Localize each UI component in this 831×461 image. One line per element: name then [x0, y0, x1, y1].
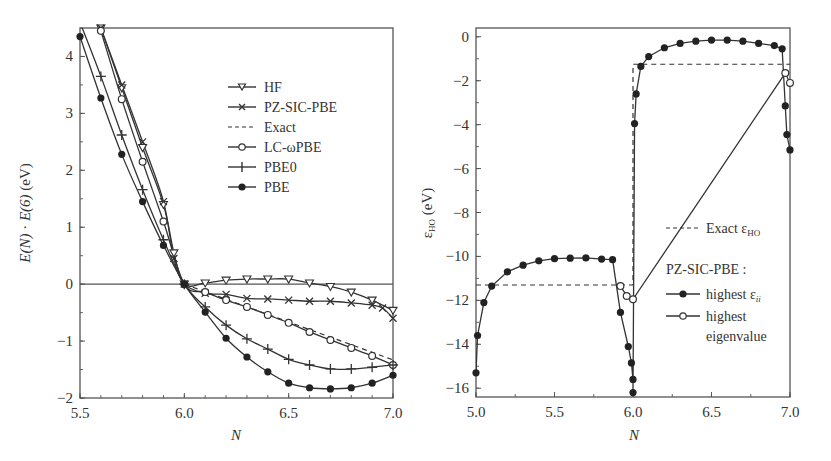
left-y-label-dot: · [17, 221, 33, 234]
y-tick-label: −12 [446, 292, 469, 308]
legend-item-hf: HF [228, 80, 282, 95]
data-point-open-circle [264, 311, 271, 318]
y-tick-label: 1 [66, 219, 74, 235]
legend-label: PZ-SIC-PBE [264, 100, 337, 115]
legend-exact-text: Exact ε [706, 221, 747, 236]
data-point-filled-circle [520, 262, 527, 269]
data-point-filled-circle [306, 384, 313, 391]
data-point-filled-circle [488, 282, 495, 289]
left-legend: HF PZ-SIC-PBE Exact LC-ωPBE PBE0 PBE [228, 80, 337, 195]
data-point-plus [284, 354, 294, 364]
y-tick-label: 4 [66, 48, 74, 64]
series-pbe0 [80, 22, 393, 369]
data-point-open-circle [348, 345, 355, 352]
data-point-filled-circle [708, 36, 715, 43]
data-point-filled-circle [771, 42, 778, 49]
series-layer [80, 22, 393, 389]
data-point-filled-circle [677, 40, 684, 47]
data-point-plus [367, 362, 377, 372]
y-tick-label: −6 [453, 161, 469, 177]
data-point-filled-circle [222, 335, 229, 342]
x-tick-label: 5.5 [545, 404, 564, 420]
y-tick-label: 2 [66, 162, 74, 178]
y-tick-label: −14 [446, 336, 470, 352]
data-point-filled-circle [181, 281, 188, 288]
data-point-filled-circle [755, 40, 762, 47]
x-tick-label: 6.5 [702, 404, 721, 420]
legend-title: PZ-SIC-PBE : [666, 262, 747, 277]
legend-label: highest [706, 309, 747, 324]
left-y-axis-label: E(N) · E(6) (eV) [17, 163, 34, 264]
data-point-filled-circle [661, 44, 668, 51]
data-point-filled-circle [567, 255, 574, 262]
legend-label: highest εii [706, 287, 761, 304]
data-point-plus [117, 130, 127, 140]
legend-eii-text: highest ε [706, 287, 756, 302]
series-line [101, 31, 393, 365]
left-x-axis-label: N [230, 427, 242, 443]
data-point-filled-circle [692, 38, 699, 45]
data-point-open-circle [630, 296, 637, 303]
series-pbe [80, 37, 393, 389]
legend-eii-sub: ii [756, 294, 762, 304]
data-point-open-circle [139, 158, 146, 165]
data-point-plus [263, 344, 273, 354]
data-point-filled-circle [598, 255, 605, 262]
data-point-filled-circle [629, 376, 636, 383]
data-point-open-circle [160, 218, 167, 225]
data-point-open-circle [617, 283, 624, 290]
legend-label: LC-ωPBE [264, 140, 321, 155]
x-tick-label: 6.0 [624, 404, 643, 420]
data-point-filled-circle [348, 384, 355, 391]
y-tick-label: −10 [446, 248, 469, 264]
data-point-open-circle [244, 304, 251, 311]
right-x-axis-label: N [628, 427, 640, 443]
legend-item-pbe0: PBE0 [228, 160, 297, 175]
data-point-filled-circle [474, 332, 481, 339]
series-line [476, 64, 790, 285]
data-point-filled-circle [551, 255, 558, 262]
x-tick-label: 6.5 [279, 405, 298, 421]
legend-label-line2: eigenvalue [706, 329, 767, 344]
series-line [101, 28, 393, 318]
legend-label: HF [264, 80, 282, 95]
data-point-filled-circle [779, 45, 786, 52]
data-point-filled-circle [243, 353, 250, 360]
left-y-label-e6: E(6) [17, 194, 34, 222]
y-tick-label: −1 [57, 333, 73, 349]
series-pz-sic-pbe [101, 28, 393, 318]
data-point-open-circle [202, 289, 209, 296]
data-point-open-circle [285, 319, 292, 326]
right-y-label-unit: (eV) [419, 188, 436, 219]
left-y-label-en: E(N) [17, 234, 34, 264]
data-point-filled-circle [782, 102, 789, 109]
data-point-filled-circle [625, 343, 632, 350]
markers-lc-pbe [97, 27, 396, 368]
data-point-filled-circle [504, 268, 511, 275]
right-y-axis-label: εHO (eV) [419, 188, 437, 239]
data-point-plus [325, 364, 335, 374]
series-line [80, 22, 393, 369]
open-circle-marker-icon [680, 313, 686, 319]
markers-hf [97, 25, 397, 314]
data-point-filled-circle [617, 309, 624, 316]
data-point-open-circle [369, 352, 376, 359]
data-point-open-circle [327, 337, 334, 344]
data-point-open-circle [782, 70, 789, 77]
data-point-open-circle [306, 329, 313, 336]
data-point-filled-circle [724, 36, 731, 43]
data-point-plus [96, 71, 106, 81]
markers-pbe0 [96, 71, 398, 374]
data-point-filled-circle [629, 389, 636, 396]
data-point-plus [388, 360, 398, 370]
data-point-filled-circle [786, 146, 793, 153]
legend-item-exact: Exact [228, 120, 296, 135]
y-tick-label: 0 [462, 29, 470, 45]
right-y-label-sub: HO [427, 218, 437, 231]
legend-label: PBE0 [264, 160, 297, 175]
data-point-filled-circle [645, 53, 652, 60]
legend-item-pz-sic-pbe: PZ-SIC-PBE [228, 100, 337, 115]
data-point-filled-circle [739, 38, 746, 45]
data-point-filled-circle [609, 256, 616, 263]
data-point-filled-circle [535, 257, 542, 264]
